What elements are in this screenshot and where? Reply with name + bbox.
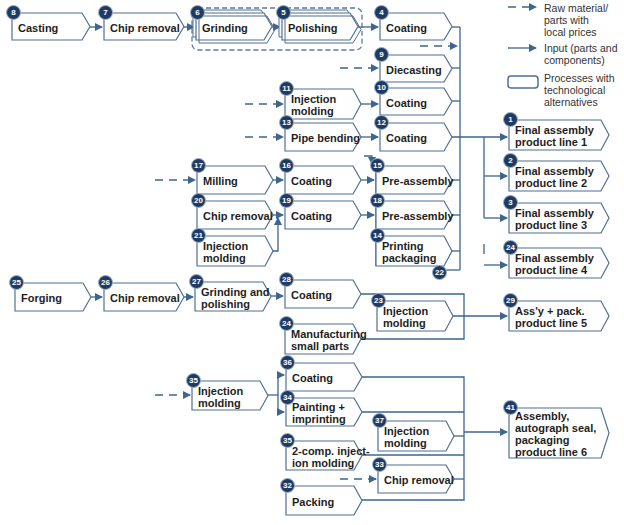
process-label: Manufacturing small parts (291, 328, 367, 352)
process-node-n23: Injection molding23 (377, 301, 453, 331)
process-node-n1: Final assembly product line 11 (509, 120, 609, 150)
process-label: Milling (203, 175, 238, 187)
process-node-n13: Pipe bending13 (285, 123, 361, 151)
process-label: Diecasting (386, 64, 442, 76)
step-number-badge: 21 (191, 228, 206, 243)
process-label: Polishing (288, 22, 338, 34)
process-node-n8: Casting8 (12, 13, 90, 40)
process-label: Injection molding (291, 93, 336, 117)
process-label: Painting + imprinting (292, 401, 346, 425)
process-node-n33: Chip removal33 (378, 465, 454, 493)
process-label: Final assembly product line 3 (515, 207, 594, 231)
process-node-n2: Final assembly product line 22 (509, 161, 609, 191)
step-number-badge: 25 (9, 275, 24, 290)
process-label: Pre-assembly (382, 175, 454, 187)
process-node-n6: Grinding6 (196, 13, 272, 40)
step-number-badge: 23 (371, 293, 386, 308)
process-label: Chip removal (384, 474, 454, 486)
process-label: Chip removal (203, 210, 273, 222)
step-number-badge: 7 (98, 5, 113, 20)
process-label: Chip removal (110, 292, 180, 304)
legend-raw-material: Raw material/ parts with local prices (544, 2, 608, 38)
process-node-n27: Grinding and polishing27 (195, 282, 271, 311)
process-node-n41: Assembly, autograph seal, packaging prod… (509, 408, 609, 458)
process-node-n14: Printing packaging14 (376, 236, 452, 266)
process-label: Coating (386, 22, 427, 34)
process-node-n10: Coating10 (380, 88, 452, 115)
step-number-badge: 6 (190, 5, 205, 20)
process-label: Forging (21, 292, 62, 304)
step-number-badge: 14 (370, 228, 385, 243)
process-label: Assembly, autograph seal, packaging prod… (515, 410, 596, 458)
process-node-n26: Chip removal26 (104, 283, 184, 311)
legend-alternatives: Processes with technological alternative… (544, 72, 615, 108)
process-node-n24b: Manufacturing small parts24 (285, 324, 361, 354)
step-number-badge: 19 (279, 193, 294, 208)
process-node-n18: Pre-assembly18 (376, 201, 452, 229)
process-label: Pre-assembly (382, 210, 454, 222)
process-node-n37: Injection molding37 (378, 421, 454, 451)
process-label: Final assembly product line 4 (515, 252, 594, 276)
process-node-n25: Forging25 (15, 283, 91, 311)
process-node-n28: Coating28 (285, 280, 361, 308)
process-flow-diagram: Casting8Chip removal7Grinding6Polishing5… (0, 0, 624, 525)
process-node-n20: Chip removal20 (197, 201, 273, 229)
process-label: Final assembly product line 1 (515, 124, 594, 148)
step-number-badge: 2 (503, 153, 518, 168)
step-number-badge: 22 (432, 265, 447, 280)
step-number-badge: 10 (374, 80, 389, 95)
process-label: Casting (18, 22, 58, 34)
process-label: Coating (386, 132, 427, 144)
step-number-badge: 32 (280, 478, 295, 493)
step-number-badge: 11 (279, 81, 294, 96)
process-node-n19: Coating19 (285, 201, 361, 229)
process-label: Injection molding (384, 425, 429, 449)
process-node-n35b: 2-comp. inject- ion molding35 (286, 441, 362, 470)
process-label: Injection molding (383, 305, 428, 329)
process-node-n12: Coating12 (380, 123, 452, 151)
step-number-badge: 27 (189, 274, 204, 289)
process-label: Chip removal (110, 22, 180, 34)
step-number-badge: 29 (503, 293, 518, 308)
process-node-n4: Coating4 (380, 13, 452, 40)
process-label: Injection molding (203, 240, 248, 264)
step-number-badge: 26 (98, 275, 113, 290)
process-label: Pipe bending (291, 132, 360, 144)
step-number-badge: 33 (372, 457, 387, 472)
step-number-badge: 9 (374, 47, 389, 62)
process-label: Grinding and polishing (201, 286, 269, 310)
step-number-badge: 8 (6, 5, 21, 20)
process-label: Coating (291, 289, 332, 301)
step-number-badge: 15 (370, 158, 385, 173)
step-number-badge: 24 (279, 316, 294, 331)
process-node-n24: Final assembly product line 424 (509, 248, 609, 278)
process-node-n36: Coating36 (286, 363, 362, 391)
step-number-badge: 34 (280, 390, 295, 405)
process-label: Coating (292, 372, 333, 384)
process-node-n15: Pre-assembly15 (376, 166, 452, 194)
process-node-n5: Polishing5 (282, 13, 358, 40)
step-number-badge: 17 (191, 158, 206, 173)
process-label: Coating (291, 175, 332, 187)
process-node-n3: Final assembly product line 33 (509, 203, 609, 233)
process-label: Final assembly product line 2 (515, 165, 594, 189)
step-number-badge: 35 (186, 373, 201, 388)
step-number-badge: 41 (503, 400, 518, 415)
step-number-badge: 24 (503, 240, 518, 255)
process-node-n29: Ass'y + pack. product line 529 (509, 301, 609, 331)
process-node-n32: Packing32 (286, 486, 362, 515)
step-number-badge: 3 (503, 195, 518, 210)
process-node-n11: Injection molding11 (285, 89, 361, 119)
process-label: Printing packaging (382, 240, 436, 264)
process-label: Coating (291, 210, 332, 222)
step-number-badge: 36 (280, 355, 295, 370)
legend-input: Input (parts and components) (544, 42, 618, 66)
step-number-badge: 13 (279, 115, 294, 130)
process-node-n21: Injection molding21 (197, 236, 273, 266)
step-number-badge: 35 (280, 433, 295, 448)
step-number-badge: 37 (372, 413, 387, 428)
process-label: Injection molding (198, 385, 243, 409)
process-node-n35a: Injection molding35 (192, 381, 268, 410)
process-node-n16: Coating16 (285, 166, 361, 194)
step-number-badge: 28 (279, 272, 294, 287)
